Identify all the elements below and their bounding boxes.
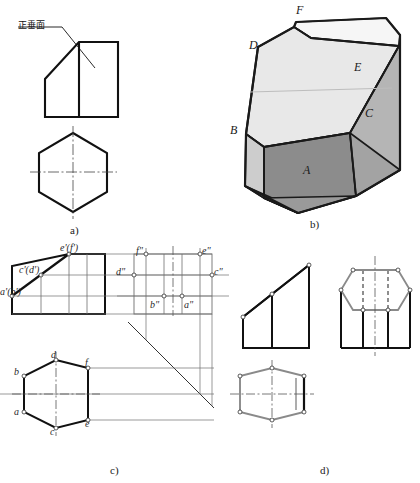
point-f-dprime <box>144 252 148 256</box>
label-c-dprime: c" <box>214 266 223 277</box>
caption-c: c) <box>110 464 119 476</box>
label-cd-prime: c'(d') <box>19 264 39 275</box>
vertex-label-E: E <box>354 60 361 75</box>
point-d-dprime <box>132 273 136 277</box>
label-a-dprime: a" <box>184 299 193 310</box>
point-b-dprime <box>162 294 166 298</box>
label-ef-prime: e'(f') <box>60 242 78 253</box>
label-f-dprime: f" <box>136 245 143 256</box>
label-d: d <box>51 349 56 360</box>
point-c <box>54 426 58 430</box>
label-c: c <box>50 426 54 437</box>
label-b-dprime: b" <box>150 299 159 310</box>
vertex-label-A: A <box>303 163 310 178</box>
label-e-dprime: e" <box>202 245 211 256</box>
label-a: a <box>14 406 19 417</box>
point-a <box>22 410 26 414</box>
label-b: b <box>14 366 19 377</box>
plane-annotation-label: 正垂面 <box>18 18 45 31</box>
vertex-label-B: B <box>230 123 237 138</box>
vertex-label-D: D <box>249 38 258 53</box>
point-b <box>22 374 26 378</box>
label-d-dprime: d" <box>116 266 125 277</box>
caption-b: b) <box>310 218 319 230</box>
panel-b-solid <box>245 18 400 213</box>
label-e: e <box>85 418 89 429</box>
point-a-dprime <box>180 294 184 298</box>
label-f: f <box>85 357 88 368</box>
caption-d: d) <box>320 464 329 476</box>
vertex-label-C: C <box>365 106 373 121</box>
vertex-label-F: F <box>296 3 303 18</box>
caption-a: a) <box>70 224 79 236</box>
label-ab-prime: a'(b') <box>0 286 21 297</box>
